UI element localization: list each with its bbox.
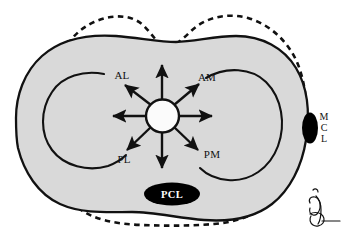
pl-label: PL [117,153,130,165]
anatomical-diagram: PCL M C L AL AM PL PM [0,0,343,245]
pcl-label: PCL [161,189,183,200]
mcl-label-c: C [321,122,328,133]
knee-diagram-svg: PCL M C L AL AM PL PM [0,0,343,245]
mcl-label-m: M [320,111,329,122]
pm-label: PM [204,148,220,160]
central-hub-circle [146,100,179,133]
am-label: AM [198,71,216,83]
signature-mark [309,189,340,226]
mcl-ellipse [302,113,318,144]
mcl-label-l: L [321,133,327,144]
al-label: AL [114,69,129,81]
